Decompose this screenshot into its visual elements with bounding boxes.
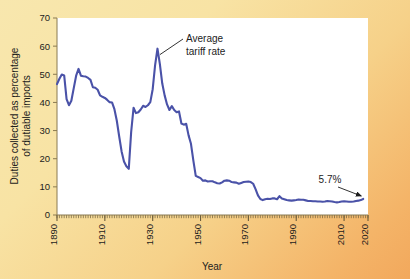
final-value-label: 5.7%	[319, 174, 342, 185]
figure-container: 010203040506070 189019101930195019701990…	[0, 0, 410, 279]
y-tick-label: 70	[39, 12, 50, 23]
y-axis-title-line1: Duties collected as percentage	[9, 47, 20, 184]
x-tick-label: 2010	[335, 224, 346, 245]
y-tick-label: 60	[39, 41, 50, 52]
y-tick-label: 30	[39, 125, 50, 136]
x-tick-label: 1970	[239, 224, 250, 245]
y-axis-tick-labels: 010203040506070	[39, 12, 50, 220]
x-axis-tick-labels: 18901910193019501970199020102020	[48, 224, 370, 245]
x-tick-label: 1910	[96, 224, 107, 245]
y-tick-label: 20	[39, 153, 50, 164]
x-axis-title: Year	[202, 261, 223, 272]
x-tick-label: 1890	[48, 224, 59, 245]
y-axis-ticks	[53, 18, 57, 215]
y-tick-label: 10	[39, 181, 50, 192]
tariff-rate-line-chart: 010203040506070 189019101930195019701990…	[0, 0, 410, 279]
x-tick-label: 1930	[144, 224, 155, 245]
y-axis-title-line2: of dutiable imports	[21, 75, 32, 157]
y-tick-label: 40	[39, 97, 50, 108]
y-tick-label: 0	[45, 209, 50, 220]
x-tick-label: 2020	[359, 224, 370, 245]
x-tick-label: 1950	[192, 224, 203, 245]
average-tariff-rate-label-line2: tariff rate	[186, 46, 226, 57]
x-tick-label: 1990	[287, 224, 298, 245]
y-tick-label: 50	[39, 69, 50, 80]
average-tariff-rate-label-line1: Average	[186, 33, 224, 44]
